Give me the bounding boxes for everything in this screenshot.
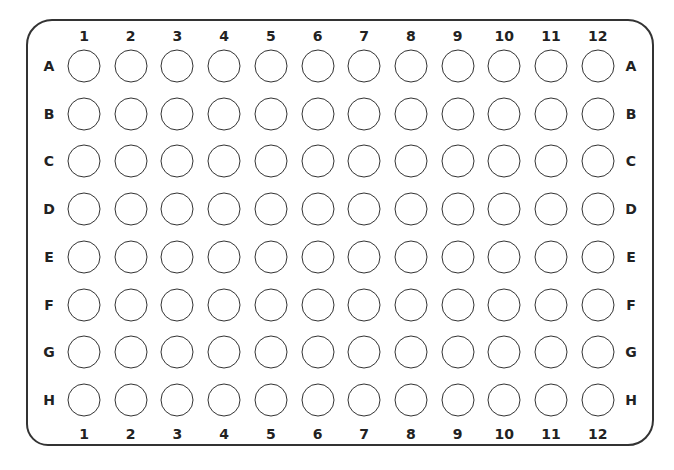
- well-H3[interactable]: [161, 383, 194, 416]
- well-C8[interactable]: [394, 145, 427, 178]
- well-C6[interactable]: [301, 145, 334, 178]
- well-F3[interactable]: [161, 288, 194, 321]
- well-F4[interactable]: [208, 288, 241, 321]
- well-B10[interactable]: [488, 97, 521, 130]
- well-G2[interactable]: [114, 336, 147, 369]
- well-G3[interactable]: [161, 336, 194, 369]
- well-G10[interactable]: [488, 336, 521, 369]
- well-H5[interactable]: [254, 383, 287, 416]
- well-F10[interactable]: [488, 288, 521, 321]
- well-C12[interactable]: [581, 145, 614, 178]
- column-label-top: 5: [266, 29, 276, 43]
- well-A4[interactable]: [208, 50, 241, 83]
- well-C7[interactable]: [348, 145, 381, 178]
- well-E12[interactable]: [581, 240, 614, 273]
- well-H7[interactable]: [348, 383, 381, 416]
- well-F2[interactable]: [114, 288, 147, 321]
- well-B8[interactable]: [394, 97, 427, 130]
- well-F11[interactable]: [535, 288, 568, 321]
- well-G9[interactable]: [441, 336, 474, 369]
- well-H9[interactable]: [441, 383, 474, 416]
- well-B7[interactable]: [348, 97, 381, 130]
- well-G12[interactable]: [581, 336, 614, 369]
- well-H1[interactable]: [68, 383, 101, 416]
- well-F9[interactable]: [441, 288, 474, 321]
- well-E2[interactable]: [114, 240, 147, 273]
- well-C3[interactable]: [161, 145, 194, 178]
- well-G8[interactable]: [394, 336, 427, 369]
- well-D5[interactable]: [254, 193, 287, 226]
- well-F7[interactable]: [348, 288, 381, 321]
- well-E5[interactable]: [254, 240, 287, 273]
- well-D8[interactable]: [394, 193, 427, 226]
- well-B12[interactable]: [581, 97, 614, 130]
- well-C2[interactable]: [114, 145, 147, 178]
- well-F5[interactable]: [254, 288, 287, 321]
- well-H2[interactable]: [114, 383, 147, 416]
- well-A5[interactable]: [254, 50, 287, 83]
- well-F6[interactable]: [301, 288, 334, 321]
- well-D11[interactable]: [535, 193, 568, 226]
- well-D7[interactable]: [348, 193, 381, 226]
- well-D4[interactable]: [208, 193, 241, 226]
- well-A7[interactable]: [348, 50, 381, 83]
- well-D1[interactable]: [68, 193, 101, 226]
- well-G4[interactable]: [208, 336, 241, 369]
- well-E3[interactable]: [161, 240, 194, 273]
- column-label-bottom: 8: [406, 427, 416, 441]
- well-C11[interactable]: [535, 145, 568, 178]
- well-E6[interactable]: [301, 240, 334, 273]
- well-G6[interactable]: [301, 336, 334, 369]
- well-C10[interactable]: [488, 145, 521, 178]
- well-A9[interactable]: [441, 50, 474, 83]
- well-A2[interactable]: [114, 50, 147, 83]
- well-H10[interactable]: [488, 383, 521, 416]
- well-E10[interactable]: [488, 240, 521, 273]
- well-H11[interactable]: [535, 383, 568, 416]
- well-A6[interactable]: [301, 50, 334, 83]
- well-H6[interactable]: [301, 383, 334, 416]
- well-E1[interactable]: [68, 240, 101, 273]
- well-C5[interactable]: [254, 145, 287, 178]
- well-B6[interactable]: [301, 97, 334, 130]
- well-E4[interactable]: [208, 240, 241, 273]
- well-G7[interactable]: [348, 336, 381, 369]
- well-E8[interactable]: [394, 240, 427, 273]
- well-B5[interactable]: [254, 97, 287, 130]
- well-B11[interactable]: [535, 97, 568, 130]
- well-D6[interactable]: [301, 193, 334, 226]
- well-F1[interactable]: [68, 288, 101, 321]
- well-H8[interactable]: [394, 383, 427, 416]
- well-E9[interactable]: [441, 240, 474, 273]
- well-A1[interactable]: [68, 50, 101, 83]
- well-B3[interactable]: [161, 97, 194, 130]
- well-A8[interactable]: [394, 50, 427, 83]
- well-B1[interactable]: [68, 97, 101, 130]
- well-E7[interactable]: [348, 240, 381, 273]
- well-D10[interactable]: [488, 193, 521, 226]
- well-B9[interactable]: [441, 97, 474, 130]
- well-H4[interactable]: [208, 383, 241, 416]
- well-G1[interactable]: [68, 336, 101, 369]
- well-G5[interactable]: [254, 336, 287, 369]
- well-H12[interactable]: [581, 383, 614, 416]
- well-D3[interactable]: [161, 193, 194, 226]
- well-E11[interactable]: [535, 240, 568, 273]
- well-F12[interactable]: [581, 288, 614, 321]
- well-A12[interactable]: [581, 50, 614, 83]
- well-A11[interactable]: [535, 50, 568, 83]
- well-F8[interactable]: [394, 288, 427, 321]
- well-B2[interactable]: [114, 97, 147, 130]
- well-A10[interactable]: [488, 50, 521, 83]
- well-D9[interactable]: [441, 193, 474, 226]
- row-label-left: F: [44, 298, 54, 312]
- well-C9[interactable]: [441, 145, 474, 178]
- column-label-bottom: 3: [173, 427, 183, 441]
- well-B4[interactable]: [208, 97, 241, 130]
- well-D2[interactable]: [114, 193, 147, 226]
- well-C1[interactable]: [68, 145, 101, 178]
- well-A3[interactable]: [161, 50, 194, 83]
- well-C4[interactable]: [208, 145, 241, 178]
- well-D12[interactable]: [581, 193, 614, 226]
- well-G11[interactable]: [535, 336, 568, 369]
